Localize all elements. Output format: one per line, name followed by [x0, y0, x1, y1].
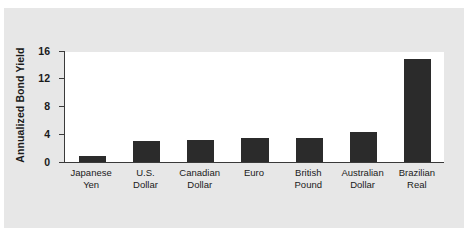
x-axis-label: Japanese Yen	[64, 167, 118, 190]
bar	[404, 59, 431, 162]
y-axis-tick-label: 8	[44, 100, 50, 112]
x-axis-label: Euro	[227, 167, 281, 179]
y-axis-tick: 12	[59, 78, 65, 79]
bar	[296, 138, 323, 162]
x-axis-label: U.S. Dollar	[118, 167, 172, 190]
y-axis-tick: 4	[59, 134, 65, 135]
bar	[241, 138, 268, 162]
y-axis-tick-label: 16	[38, 45, 50, 57]
bar	[79, 156, 106, 162]
y-axis-tick-label: 4	[44, 128, 50, 140]
y-axis-tick: 8	[59, 106, 65, 107]
x-axis-label: Brazilian Real	[390, 167, 444, 190]
bar	[187, 140, 214, 162]
y-axis-tick-label: 0	[44, 156, 50, 168]
plot-area: 0481216	[64, 52, 444, 163]
x-axis-label: Canadian Dollar	[173, 167, 227, 190]
bar	[350, 132, 377, 162]
y-axis-tick: 0	[59, 162, 65, 163]
y-axis-tick-label: 12	[38, 72, 50, 84]
bar	[133, 141, 160, 163]
y-axis-title-container: Annualized Bond Yield	[10, 40, 30, 170]
chart-figure: Annualized Bond Yield 0481216 Japanese Y…	[0, 0, 468, 236]
y-axis-title: Annualized Bond Yield	[14, 47, 26, 162]
x-axis-label: Australian Dollar	[335, 167, 389, 190]
y-axis-tick: 16	[59, 51, 65, 52]
x-axis-label: British Pound	[281, 167, 335, 190]
